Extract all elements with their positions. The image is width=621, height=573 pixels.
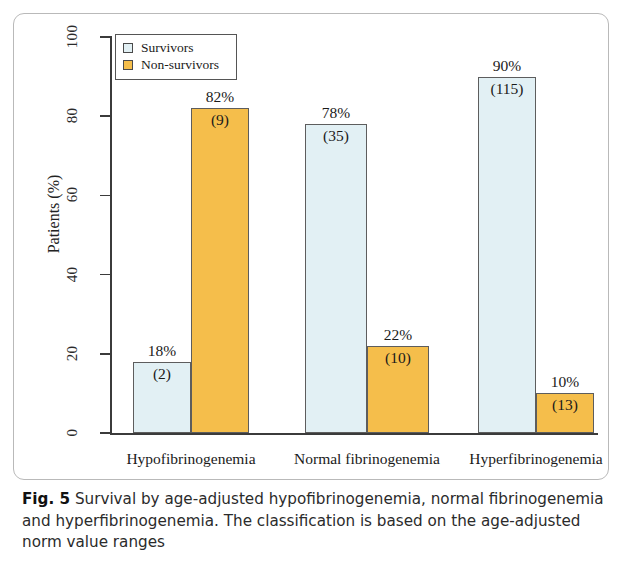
y-axis-tick — [100, 195, 111, 197]
y-axis-tick-label: 20 — [64, 331, 81, 375]
bar-survivors — [305, 124, 367, 433]
figure-caption-label: Fig. 5 — [22, 490, 70, 508]
y-axis-tick — [100, 432, 111, 434]
legend-item-survivors: Survivors — [123, 40, 229, 56]
bar-non-survivors — [191, 108, 249, 433]
figure-card: Patients (%) 020406080100 Survivors Non-… — [0, 0, 621, 573]
x-axis-category-label: Hyperfibrinogenemia — [418, 450, 621, 468]
bar-count-label: (9) — [173, 111, 267, 129]
bar-count-label: (10) — [349, 349, 447, 367]
bar-percent-label: 90% — [460, 57, 554, 75]
bar-percent-label: 78% — [287, 104, 385, 122]
y-axis-tick — [100, 274, 111, 276]
y-axis-tick-label: 100 — [64, 15, 81, 59]
bar-count-label: (13) — [518, 396, 612, 414]
bar-percent-label: 10% — [518, 373, 612, 391]
y-axis-tick-label: 0 — [64, 411, 81, 455]
bar-count-label: (115) — [460, 80, 554, 98]
bar-percent-label: 82% — [173, 88, 267, 106]
y-axis-tick — [100, 36, 111, 38]
legend-label-survivors: Survivors — [141, 41, 194, 55]
y-axis-title: Patients (%) — [45, 154, 63, 274]
y-axis-tick — [100, 115, 111, 117]
y-axis-tick-label: 80 — [64, 94, 81, 138]
chart-legend: Survivors Non-survivors — [115, 34, 237, 80]
y-axis-tick-label: 40 — [64, 252, 81, 296]
legend-label-non-survivors: Non-survivors — [141, 58, 219, 72]
y-axis-line — [110, 36, 112, 434]
bar-percent-label: 22% — [349, 326, 447, 344]
y-axis-tick-label: 60 — [64, 173, 81, 217]
figure-caption: Fig. 5 Survival by age-adjusted hypofibr… — [22, 489, 608, 554]
y-axis-tick — [100, 353, 111, 355]
legend-swatch-survivors — [123, 43, 133, 53]
bar-count-label: (35) — [287, 127, 385, 145]
chart-plot-area: Patients (%) 020406080100 Survivors Non-… — [0, 0, 621, 480]
x-axis-line — [110, 433, 598, 435]
legend-swatch-non-survivors — [123, 60, 133, 70]
legend-item-non-survivors: Non-survivors — [123, 57, 229, 73]
figure-caption-text: Survival by age-adjusted hypofibrinogene… — [22, 490, 604, 551]
